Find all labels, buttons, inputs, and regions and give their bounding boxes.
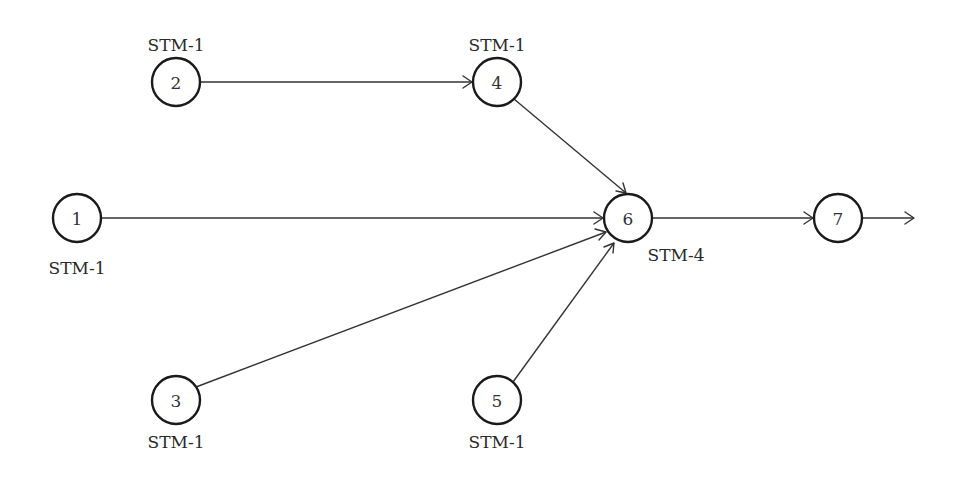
edge-5-to-6: [513, 243, 614, 382]
node-2: 2: [152, 58, 200, 106]
node-5: 5: [473, 376, 521, 424]
node-5-label: 5: [492, 391, 503, 411]
rate-label-node-3: STM-1: [148, 432, 205, 452]
rate-label-node-5: STM-1: [469, 432, 526, 452]
edge-7-to-output: [862, 212, 914, 224]
node-6: 6: [604, 194, 652, 242]
node-7-label: 7: [833, 209, 844, 229]
node-3: 3: [152, 376, 200, 424]
rate-labels: STM-1 STM-1 STM-1 STM-1 STM-1 STM-4: [49, 35, 705, 452]
node-1-label: 1: [72, 209, 83, 229]
node-3-label: 3: [171, 391, 182, 411]
rate-label-node-1: STM-1: [49, 258, 106, 278]
rate-label-node-4: STM-1: [469, 35, 526, 55]
node-1: 1: [53, 194, 101, 242]
edge-3-to-6: [196, 229, 606, 387]
nodes: 1 2 3 4 5 6 7: [53, 58, 862, 424]
rate-label-node-6: STM-4: [648, 245, 705, 265]
edges: [101, 76, 914, 387]
rate-label-node-2: STM-1: [148, 35, 205, 55]
edge-6-to-7: [652, 212, 813, 224]
node-4: 4: [473, 58, 521, 106]
node-7: 7: [814, 194, 862, 242]
network-diagram: 1 2 3 4 5 6 7 STM-1 STM-1 STM-1: [0, 0, 960, 477]
edge-4-to-6: [514, 99, 626, 193]
edge-1-to-6: [101, 212, 603, 224]
node-4-label: 4: [492, 73, 503, 93]
edge-2-to-4: [200, 76, 472, 88]
node-6-label: 6: [623, 209, 634, 229]
node-2-label: 2: [171, 73, 182, 93]
